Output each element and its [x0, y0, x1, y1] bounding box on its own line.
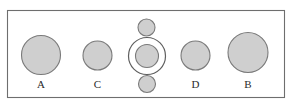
node-label-a: A [37, 78, 45, 90]
circle-small-bottom [139, 76, 156, 93]
circle-cluster-diagram: A C D B [0, 0, 291, 110]
node-label-d: D [191, 78, 199, 90]
circle-b [228, 33, 268, 73]
circle-center [136, 45, 159, 68]
circle-a [22, 36, 61, 75]
figure-container: A C D B [0, 0, 291, 110]
node-label-c: C [94, 78, 102, 90]
circle-c [83, 41, 112, 70]
circle-d [181, 41, 210, 70]
node-label-b: B [244, 78, 252, 90]
circle-small-top [138, 19, 155, 36]
